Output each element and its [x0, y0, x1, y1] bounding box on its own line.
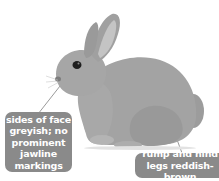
rabbit-identification-diagram: sides of face greyish; no prominent jawl…: [0, 0, 219, 181]
rabbit-eye: [73, 61, 82, 69]
annotation-rump: rump and hind legs reddish-brown: [135, 153, 219, 178]
annotation-face: sides of face greyish; no prominent jawl…: [5, 112, 72, 172]
annotation-face-text: sides of face greyish; no prominent jawl…: [5, 114, 72, 172]
rabbit-nose: [55, 77, 61, 82]
leader-line-face: [38, 86, 60, 114]
annotation-rump-text: rump and hind legs reddish-brown: [135, 148, 219, 181]
